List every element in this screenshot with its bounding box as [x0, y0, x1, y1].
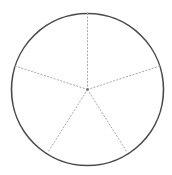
center-point-dot [86, 88, 89, 91]
circle-sector-diagram [0, 0, 172, 175]
canvas-background [0, 0, 172, 175]
figure-canvas [0, 0, 172, 175]
